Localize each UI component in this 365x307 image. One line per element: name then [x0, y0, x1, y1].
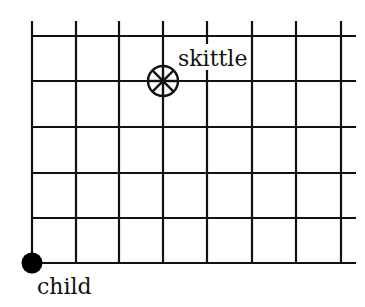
child-dot-icon	[22, 253, 43, 274]
skittle-label: skittle	[178, 46, 247, 71]
skittle-icon	[148, 66, 178, 96]
grid-diagram: skittle child	[0, 0, 365, 307]
child-label: child	[37, 274, 92, 299]
